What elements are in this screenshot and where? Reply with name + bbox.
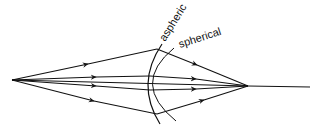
diagram-canvas: aspheric spherical (0, 0, 315, 134)
ray-diagram: aspheric spherical (0, 0, 315, 134)
spherical-label: spherical (177, 25, 223, 50)
optical-axis (248, 86, 310, 87)
